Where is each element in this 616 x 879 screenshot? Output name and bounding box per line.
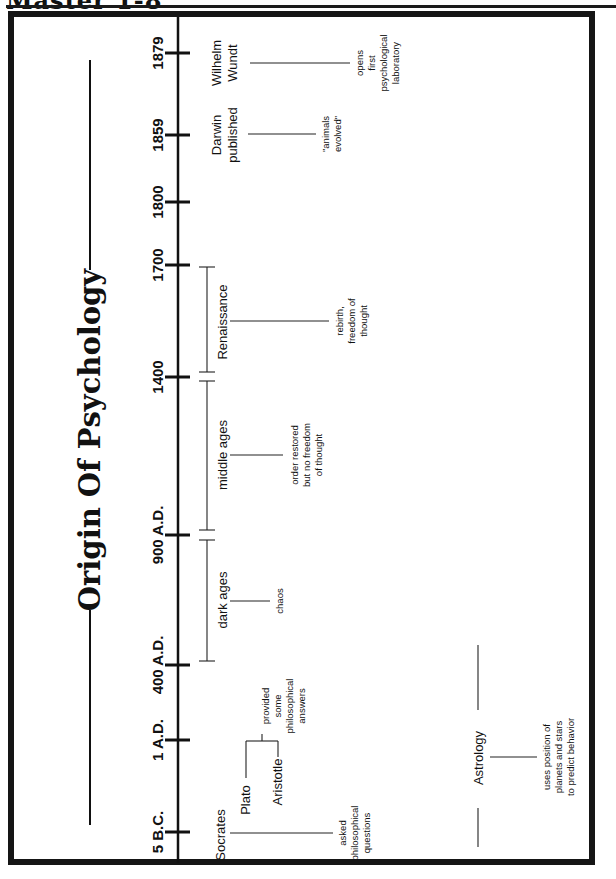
event-label-plato: Plato xyxy=(238,785,253,815)
period-note-line: rebirth, xyxy=(334,306,345,336)
tick-label: 1879 xyxy=(149,36,166,69)
tick-label: 1700 xyxy=(149,248,166,281)
period-dark-ages: dark ages chaos xyxy=(199,540,285,661)
page-title-group: Origin Of Psychology xyxy=(73,60,107,825)
period-label: middle ages xyxy=(215,419,230,490)
period-note-line: of thought xyxy=(313,434,324,477)
event-label-line: Wilhelm xyxy=(209,40,224,86)
tick-label: 900 A.D. xyxy=(149,506,166,565)
tick-label: 1859 xyxy=(149,118,166,151)
event-note-line: psychological xyxy=(378,34,389,91)
period-note-line: freedom of xyxy=(346,298,357,344)
event-note-line: evolved" xyxy=(332,116,343,152)
tick-label: 5 B.C. xyxy=(149,811,166,854)
tick-label: 1800 xyxy=(149,185,166,218)
tick-label: 1 A.D. xyxy=(149,719,166,761)
event-note-line: "animals xyxy=(320,116,331,152)
event-socrates: Socrates asked philosophical questions xyxy=(213,806,372,861)
side-topic-note-line: planets and stars xyxy=(553,721,564,794)
tick-label: 1400 xyxy=(149,360,166,393)
group-note-line: answers xyxy=(296,688,307,724)
event-label-line: Wundt xyxy=(225,44,240,82)
tick-1800: 1800 xyxy=(149,185,190,218)
period-note-line: order restored xyxy=(289,425,300,485)
period-label: dark ages xyxy=(215,571,230,629)
event-note-line: asked xyxy=(337,820,348,845)
event-plato-aristotle: Plato Aristotle provided some philosophi… xyxy=(238,679,307,815)
period-renaissance: Renaissance rebirth, freedom of thought xyxy=(199,267,369,372)
side-topic-note-line: to predict behavior xyxy=(565,718,576,796)
group-note-line: some xyxy=(272,694,283,717)
tick-400ad: 400 A.D. xyxy=(149,636,190,695)
tick-1879: 1879 xyxy=(149,36,190,69)
period-note-line: thought xyxy=(358,305,369,337)
event-note-line: laboratory xyxy=(390,42,401,84)
tick-900ad: 900 A.D. xyxy=(149,506,190,565)
tick-1400: 1400 xyxy=(149,360,190,393)
event-note-line: opens xyxy=(354,50,365,76)
event-note-line: philosophical xyxy=(349,806,360,861)
group-note-line: provided xyxy=(260,688,271,724)
side-topic-note-line: uses position of xyxy=(541,724,552,790)
group-note-line: philosophical xyxy=(284,679,295,734)
tick-1ad: 1 A.D. xyxy=(149,719,190,761)
event-label-line: published xyxy=(225,107,240,163)
event-wundt: Wilhelm Wundt opens first psychological … xyxy=(209,34,401,91)
timeline-diagram: Origin Of Psychology 5 B.C. 1 A.D. 400 A… xyxy=(0,0,616,879)
event-note-line: questions xyxy=(361,812,372,853)
period-note: chaos xyxy=(274,588,285,614)
event-note-line: first xyxy=(366,55,377,71)
event-label-aristotle: Aristotle xyxy=(270,759,285,806)
tick-1700: 1700 xyxy=(149,248,190,281)
period-note-line: but no freedom xyxy=(301,423,312,487)
event-label: Socrates xyxy=(213,809,228,861)
side-topic-label: Astrology xyxy=(471,730,486,785)
tick-5bc: 5 B.C. xyxy=(149,811,190,854)
tick-label: 400 A.D. xyxy=(149,636,166,695)
side-topic-astrology: Astrology uses position of planets and s… xyxy=(471,645,576,847)
event-darwin: Darwin published "animals evolved" xyxy=(209,107,343,163)
period-label: Renaissance xyxy=(215,284,230,359)
event-label-line: Darwin xyxy=(209,115,224,155)
tick-1859: 1859 xyxy=(149,118,190,151)
period-middle-ages: middle ages order restored but no freedo… xyxy=(199,381,324,530)
page-title: Origin Of Psychology xyxy=(73,268,107,612)
